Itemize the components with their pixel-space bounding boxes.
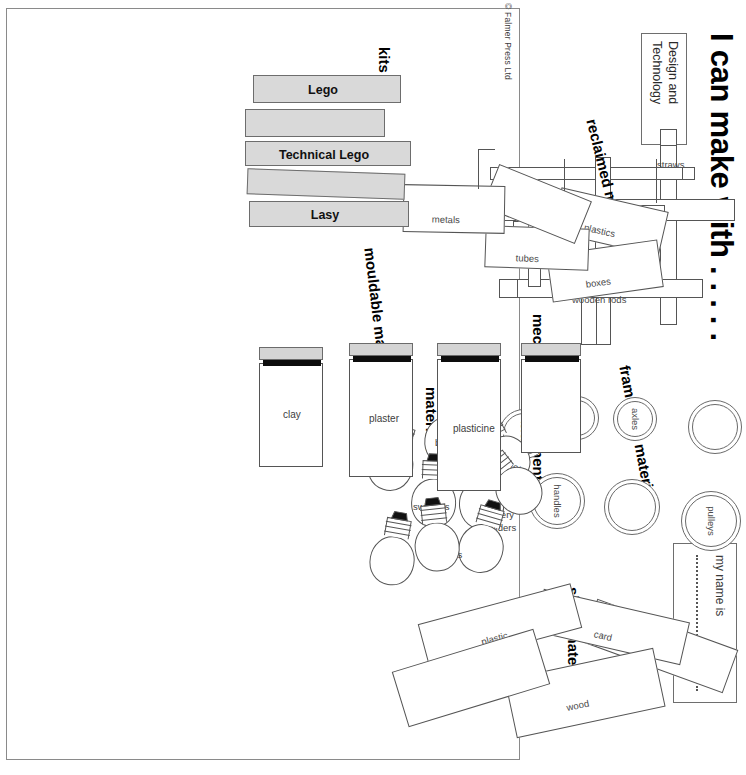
kits-slab-blank-2	[247, 168, 406, 199]
framework-stick-long-a-tip	[682, 167, 695, 180]
reclaimed-card-metals: metals	[403, 184, 506, 234]
sheet-label-wood: wood	[565, 698, 590, 713]
kits-slab-lasy: Lasy	[249, 201, 409, 227]
tub-lid-grey	[437, 343, 501, 356]
reclaimed-connector-1	[656, 159, 657, 203]
kits-label-lego: Lego	[249, 83, 397, 97]
tub-plaster: plaster	[351, 343, 413, 475]
reclaimed-connector-2	[564, 159, 565, 191]
mechanical-label-axles: axles	[630, 398, 641, 440]
tub-plasticine: plasticine	[439, 343, 501, 489]
kits-label-technical-lego: Technical Lego	[241, 148, 407, 162]
mechanical-ring-blank-1	[688, 400, 742, 454]
reclaimed-connector-4	[478, 149, 495, 150]
tub-lid-grey	[521, 343, 581, 356]
framework-stick-straws-tip	[660, 129, 677, 146]
mechanical-ring-pulleys: pulleys	[681, 491, 741, 551]
mouldable-label-clay: clay	[283, 409, 301, 420]
tub-lid-grey	[349, 343, 413, 356]
reclaimed-label-tubes: tubes	[515, 252, 539, 264]
ring-inner-circle	[692, 404, 738, 450]
bulb-blank-2	[364, 504, 424, 597]
reclaimed-label-metals: metals	[432, 214, 460, 225]
tub-body	[521, 359, 581, 453]
mechanical-ring-blank-2	[604, 479, 660, 535]
worksheet-canvas: I can make with . . . . . Design and Tec…	[245, 9, 746, 759]
name-box-label: my name is	[713, 555, 727, 616]
sheet-label-card: card	[593, 628, 613, 643]
mechanical-ring-axles: axles	[613, 397, 657, 441]
kits-slab-blank-1	[245, 109, 385, 137]
framework-stick-wooden-rods-tip	[499, 279, 518, 298]
kits-label-lasy: Lasy	[245, 208, 405, 222]
reclaimed-connector-3	[478, 149, 479, 189]
kits-slab-technical-lego: Technical Lego	[245, 141, 411, 166]
tub-lid-grey	[259, 347, 323, 360]
heading-kits: kits	[376, 47, 393, 73]
reclaimed-label-boxes: boxes	[585, 275, 612, 289]
page-title: I can make with . . . . .	[703, 33, 739, 341]
tub-clay: clay	[261, 347, 323, 465]
ring-inner-circle	[608, 483, 656, 531]
mouldable-label-plaster: plaster	[369, 413, 399, 424]
kits-slab-lego: Lego	[253, 75, 401, 103]
mouldable-label-plasticine: plasticine	[453, 423, 495, 434]
tub-blank	[523, 343, 581, 451]
mechanical-label-pulleys: pulleys	[706, 492, 717, 550]
